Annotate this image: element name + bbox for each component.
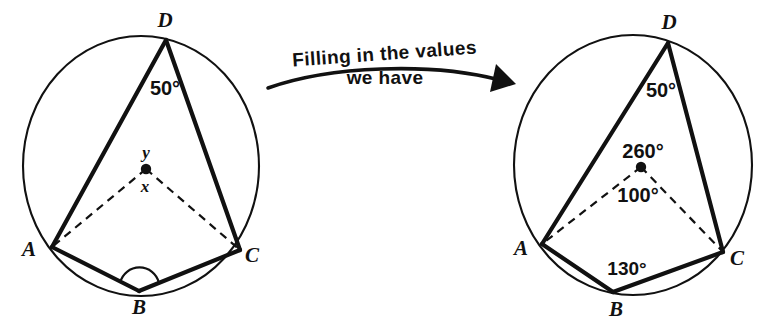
left-diagram: D A B C 50° y x xyxy=(20,8,260,319)
radius-oa-left xyxy=(52,169,146,247)
variable-label-y-left: y xyxy=(140,143,150,162)
vertex-label-b-right: B xyxy=(608,297,623,321)
geometry-figure: D A B C 50° y x Filling in the values we… xyxy=(0,0,775,328)
vertex-label-b-left: B xyxy=(131,295,146,319)
angle-label-centre-right: 100° xyxy=(617,184,658,206)
figure-canvas: D A B C 50° y x Filling in the values we… xyxy=(0,0,775,328)
angle-label-b-right: 130° xyxy=(607,258,646,279)
right-diagram: D A B C 50° 260° 100° 130° xyxy=(512,10,752,321)
centre-dot-right xyxy=(636,162,646,172)
vertex-label-c-right: C xyxy=(730,246,745,270)
curved-arrow-head xyxy=(490,64,516,92)
chord-ab-right xyxy=(542,244,613,292)
angle-label-d-left: 50° xyxy=(150,77,180,99)
vertex-label-c-left: C xyxy=(245,243,260,267)
vertex-label-d-right: D xyxy=(660,10,676,34)
vertex-label-d-left: D xyxy=(156,8,172,32)
vertex-label-a-right: A xyxy=(512,236,528,260)
angle-label-d-right: 50° xyxy=(646,79,676,101)
caption-line-1: Filling in the values xyxy=(292,37,478,71)
variable-label-x-left: x xyxy=(140,177,150,196)
caption-line-2: we have xyxy=(346,67,424,88)
centre-dot-left xyxy=(141,164,151,174)
chord-dc-right xyxy=(668,43,723,252)
chord-ab-left xyxy=(52,247,139,291)
angle-label-reflex-centre-right: 260° xyxy=(622,140,663,162)
transition-annotation: Filling in the values we have xyxy=(268,37,516,92)
angle-arc-b-left xyxy=(120,267,159,283)
vertex-label-a-left: A xyxy=(20,237,36,261)
